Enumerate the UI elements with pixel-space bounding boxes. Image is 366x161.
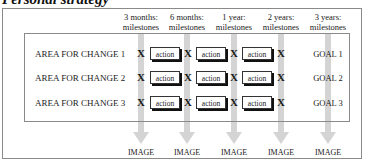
arrow-down-icon [320,132,336,144]
milestone-marker: X [183,96,193,108]
action-box: action [242,96,272,109]
arrow-down-icon [226,132,242,144]
output-image-label: IMAGE [306,148,350,157]
action-box: action [196,96,226,109]
area-label-1: AREA FOR CHANGE 1 [35,49,125,59]
column-header-line: 3 years: [298,12,358,22]
milestone-marker: X [183,47,193,59]
action-box: action [150,47,180,60]
milestone-marker: X [183,71,193,83]
action-box: action [242,47,272,60]
column-header-line: milestones [298,22,358,32]
column-header-3-years: 3 years: milestones [298,12,358,32]
area-label-3: AREA FOR CHANGE 3 [35,98,125,108]
goal-label-3: GOAL 3 [303,98,353,108]
arrow-down-icon [273,132,289,144]
action-box: action [150,96,180,109]
diagram-title: Personal strategy [2,0,109,8]
arrow-down-icon [179,132,195,144]
milestone-marker: X [229,96,239,108]
milestone-marker: X [136,96,146,108]
action-box: action [196,47,226,60]
milestone-marker: X [276,96,286,108]
output-image-label: IMAGE [119,148,163,157]
area-label-2: AREA FOR CHANGE 2 [35,73,125,83]
action-box: action [150,71,180,84]
goal-label-1: GOAL 1 [303,49,353,59]
output-image-label: IMAGE [259,148,303,157]
action-box: action [242,71,272,84]
milestone-marker: X [136,71,146,83]
output-image-label: IMAGE [212,148,256,157]
milestone-marker: X [276,71,286,83]
milestone-marker: X [229,47,239,59]
goal-label-2: GOAL 2 [303,73,353,83]
milestone-marker: X [229,71,239,83]
milestone-marker: X [276,47,286,59]
action-box: action [196,71,226,84]
milestone-marker: X [136,47,146,59]
arrow-down-icon [133,132,149,144]
output-image-label: IMAGE [165,148,209,157]
